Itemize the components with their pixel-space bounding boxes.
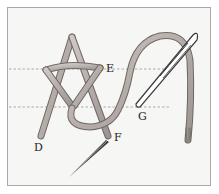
point-label-e: E bbox=[106, 62, 114, 75]
point-label-f: F bbox=[114, 131, 122, 144]
diagram-panel bbox=[8, 8, 211, 186]
point-label-d: D bbox=[34, 141, 43, 154]
point-label-g: G bbox=[138, 110, 147, 123]
stitch-diagram: D E F G bbox=[0, 0, 219, 194]
